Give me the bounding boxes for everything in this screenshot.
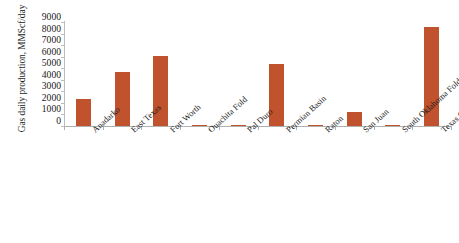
bar [347, 112, 362, 126]
y-axis-tick-label: 5000 [18, 58, 61, 68]
bar [192, 125, 207, 126]
y-axis-tick-label: 1000 [18, 104, 61, 114]
y-axis-tick-label: 6000 [18, 47, 61, 57]
bar [76, 99, 91, 126]
bar [385, 125, 400, 126]
bar [115, 72, 130, 126]
y-axis-tick-label: 3000 [18, 81, 61, 91]
bar [269, 64, 284, 126]
x-axis-category-label: East Texas [129, 127, 136, 135]
x-axis-category-label: Anadarko [90, 127, 97, 135]
bars-layer [64, 22, 451, 126]
bar-chart: Gas daily production, MMScf/day 90008000… [0, 0, 459, 243]
x-axis-category-label: Texas Coast Basin [439, 127, 446, 135]
x-axis-category-label: Fort Worth [168, 127, 175, 135]
x-axis-category-label: San Juan [361, 127, 368, 135]
bar [231, 125, 246, 126]
y-axis-tick-label: 4000 [18, 70, 61, 80]
y-axis-tick-label: 7000 [18, 35, 61, 45]
plot-area [64, 22, 451, 126]
x-axis-category-label: Raton [323, 127, 330, 135]
x-axis-category-label: Ouachita Fold [206, 127, 213, 135]
y-axis-tick-labels: 9000800070006000500040003000200010000 [18, 17, 61, 129]
y-axis-tick-label: 2000 [18, 93, 61, 103]
x-axis-category-labels: AnadarkoEast TexasFort WorthOuachita Fol… [64, 127, 459, 243]
x-axis-category-label: Permian Basin [284, 127, 291, 135]
y-axis-tick-label: 8000 [18, 24, 61, 34]
x-axis-category-label: Pal Duro [245, 127, 252, 135]
bar [308, 125, 323, 126]
x-axis-category-label: South Oklahoma Folded Belt [400, 127, 407, 135]
y-axis-tick-label: 0 [18, 116, 61, 126]
y-axis-tick-label: 9000 [18, 12, 61, 22]
